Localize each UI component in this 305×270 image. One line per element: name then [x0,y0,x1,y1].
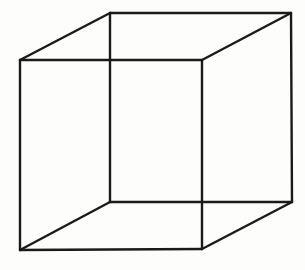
connector-top-right-edge [202,13,291,60]
connector-top-left-edge [20,13,110,60]
front-bottom-edge [20,249,202,250]
wireframe-cube [20,13,292,250]
connector-bottom-left-edge [20,202,110,250]
cube-diagram [0,0,305,270]
connector-bottom-right-edge [202,202,292,249]
back-right-edge [291,13,292,202]
